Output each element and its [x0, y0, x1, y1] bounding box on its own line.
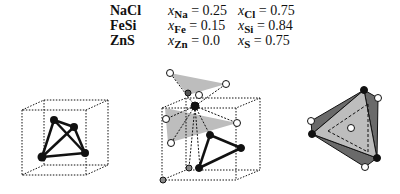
atom: [70, 123, 78, 131]
open-atom: [168, 140, 175, 147]
tetrahedron-edges: [42, 120, 85, 157]
polyhedron-figure: [308, 87, 382, 171]
grey-atom: [186, 165, 192, 171]
grey-atom: [160, 177, 166, 183]
atom: [361, 87, 368, 94]
coordination-figure: [160, 70, 260, 184]
dotted-cube: [22, 100, 108, 175]
atom: [238, 145, 245, 152]
center-atom: [348, 125, 355, 132]
center-atom: [191, 102, 199, 110]
open-atom: [167, 70, 174, 77]
lower-triangle-face: [165, 108, 237, 143]
tetrahedron-edges: [199, 135, 241, 168]
atom: [38, 153, 47, 162]
open-atom: [223, 81, 230, 88]
open-atom: [375, 95, 382, 102]
atom: [196, 165, 203, 172]
open-atom: [308, 118, 315, 125]
atom: [50, 116, 58, 124]
open-atom: [196, 92, 203, 99]
grey-atom: [185, 90, 191, 96]
open-atom: [163, 116, 170, 123]
structure-figures: [0, 0, 400, 194]
atom: [81, 149, 89, 157]
cube-tetrahedron-figure: [22, 100, 108, 175]
atom: [309, 131, 316, 138]
open-atom: [362, 164, 369, 171]
atom: [207, 132, 214, 139]
atom: [374, 155, 381, 162]
open-atom: [234, 120, 241, 127]
